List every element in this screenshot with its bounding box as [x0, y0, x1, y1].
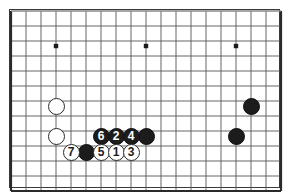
move-number-label: 7 [68, 146, 75, 158]
stone-black-right-upper[interactable] [243, 98, 260, 115]
move-number-label: 1 [113, 146, 120, 158]
star-point-left-marker [54, 44, 58, 48]
go-board-diagram: 6247513 [0, 0, 287, 196]
move-number-label: 2 [113, 130, 120, 142]
stone-black-unnumbered-row[interactable] [138, 128, 155, 145]
stone-white-move-1[interactable]: 1 [108, 144, 125, 161]
move-number-label: 6 [98, 130, 105, 142]
star-point-right-marker [234, 44, 238, 48]
stone-black-right-lower[interactable] [228, 128, 245, 145]
stone-black-move-2[interactable]: 2 [108, 128, 125, 145]
stone-white-move-3[interactable]: 3 [123, 144, 140, 161]
move-number-label: 3 [128, 146, 135, 158]
move-number-label: 5 [98, 146, 105, 158]
stone-black-move-6[interactable]: 6 [93, 128, 110, 145]
board-grid [0, 0, 287, 196]
move-number-label: 4 [128, 130, 135, 142]
stone-white-lower-left[interactable] [48, 128, 65, 145]
star-point-center-marker [144, 44, 148, 48]
stone-black-move-4[interactable]: 4 [123, 128, 140, 145]
stone-black-unnumbered-bottom[interactable] [78, 144, 95, 161]
stone-white-move-7[interactable]: 7 [63, 144, 80, 161]
stone-white-upper-left[interactable] [48, 98, 65, 115]
stone-white-move-5[interactable]: 5 [93, 144, 110, 161]
